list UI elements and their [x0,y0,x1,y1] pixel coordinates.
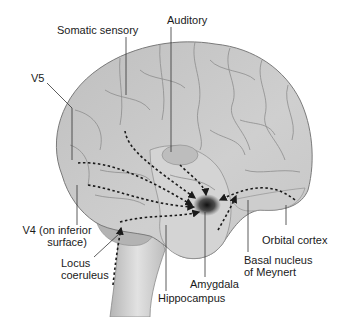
auditory-cortex-region [162,145,198,165]
label-v5: V5 [31,72,44,84]
label-auditory: Auditory [167,14,207,26]
label-hippocampus: Hippocampus [158,292,225,304]
label-locus-line2: coeruleus [61,269,109,281]
label-basal-nucleus: Basal nucleus of Meynert [244,254,313,278]
amygdala-spot [193,194,221,216]
label-v4-line2: surface) [22,236,92,248]
label-v4-line1: V4 (on inferior [22,224,92,236]
label-locus-coeruleus: Locus coeruleus [61,257,109,281]
label-somatic-sensory: Somatic sensory [57,24,138,36]
label-basal-line2: of Meynert [244,266,313,278]
label-amygdala: Amygdala [190,278,239,290]
label-locus-line1: Locus [61,257,109,269]
brain-diagram: Somatic sensory Auditory V5 V4 (on infer… [0,0,340,317]
label-orbital-cortex: Orbital cortex [262,234,327,246]
label-v4: V4 (on inferior surface) [22,224,92,248]
cerebral-cortex [56,42,312,259]
label-basal-line1: Basal nucleus [244,254,313,266]
